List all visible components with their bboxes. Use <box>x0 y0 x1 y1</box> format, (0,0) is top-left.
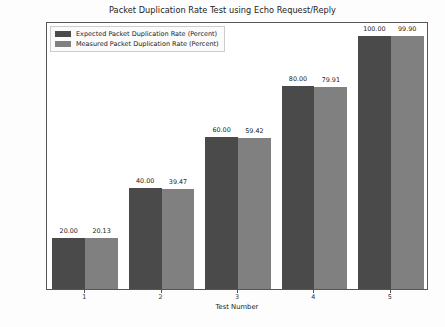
bar-value-label: 80.00 <box>289 75 307 83</box>
bar-group: 40.0039.47 <box>129 23 195 289</box>
legend-label-measured: Measured Packet Duplication Rate (Percen… <box>76 40 219 48</box>
chart-figure: Packet Duplication Rate Test using Echo … <box>0 0 445 327</box>
bar-expected: 20.00 <box>52 238 85 289</box>
chart-legend: Expected Packet Duplication Rate (Percen… <box>50 26 225 52</box>
bar-expected: 80.00 <box>282 86 315 289</box>
x-tick-mark <box>161 290 162 293</box>
x-tick-mark <box>313 290 314 293</box>
bar-measured: 99.90 <box>391 36 424 289</box>
bar-expected: 60.00 <box>205 137 238 289</box>
x-tick-mark <box>237 290 238 293</box>
legend-label-expected: Expected Packet Duplication Rate (Percen… <box>76 30 217 38</box>
bar-measured: 20.13 <box>85 238 118 289</box>
x-tick-label: 5 <box>370 293 410 301</box>
bar-group: 20.0020.13 <box>52 23 118 289</box>
x-tick-label: 3 <box>217 293 257 301</box>
bar-group: 80.0079.91 <box>282 23 348 289</box>
legend-swatch-expected-icon <box>55 31 71 37</box>
bar-value-label: 20.00 <box>60 227 78 235</box>
legend-item-expected: Expected Packet Duplication Rate (Percen… <box>55 30 219 38</box>
bar-group: 60.0059.42 <box>205 23 271 289</box>
legend-item-measured: Measured Packet Duplication Rate (Percen… <box>55 40 219 48</box>
bar-value-label: 60.00 <box>212 126 230 134</box>
x-tick-label: 2 <box>141 293 181 301</box>
bar-group: 100.0099.90 <box>358 23 424 289</box>
bar-measured: 79.91 <box>314 87 347 289</box>
bar-value-label: 20.13 <box>92 227 110 235</box>
x-tick-label: 4 <box>293 293 333 301</box>
bar-value-label: 99.90 <box>398 25 416 33</box>
plot-frame: 20.0020.1340.0039.4760.0059.4280.0079.91… <box>46 22 428 290</box>
x-tick-mark <box>390 290 391 293</box>
bar-value-label: 100.00 <box>363 25 385 33</box>
x-axis-label: Test Number <box>46 303 428 311</box>
bar-expected: 100.00 <box>358 36 391 289</box>
legend-swatch-measured-icon <box>55 41 71 47</box>
bar-value-label: 39.47 <box>169 178 187 186</box>
bar-measured: 39.47 <box>162 189 195 289</box>
bar-measured: 59.42 <box>238 138 271 289</box>
x-tick-label: 1 <box>64 293 104 301</box>
x-tick-mark <box>84 290 85 293</box>
bar-expected: 40.00 <box>129 188 162 289</box>
bar-value-label: 79.91 <box>322 76 340 84</box>
bar-value-label: 59.42 <box>245 127 263 135</box>
plot-area: 20.0020.1340.0039.4760.0059.4280.0079.91… <box>47 23 427 289</box>
bar-value-label: 40.00 <box>136 177 154 185</box>
chart-title: Packet Duplication Rate Test using Echo … <box>0 5 445 15</box>
